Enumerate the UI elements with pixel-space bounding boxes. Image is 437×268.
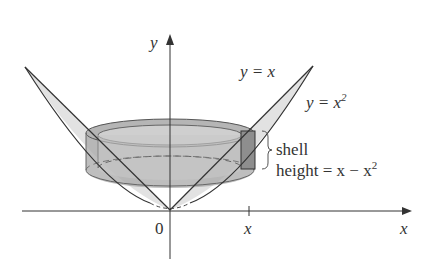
shell-label: shell [276,140,308,159]
y-axis-label: y [148,33,158,52]
y-axis-arrow-icon [166,34,174,45]
curve-label-y-equals-x-squared: y = x2 [304,91,347,112]
shell-diagram: y x 0 x y = x y = x2 shell height = x − … [0,0,437,268]
x-axis-label: x [399,219,408,238]
height-label: height = x − x2 [276,159,377,180]
x-axis-arrow-icon [402,207,412,215]
x-tick-label: x [243,219,252,238]
curve-label-y-equals-x: y = x [238,62,276,81]
origin-label: 0 [155,219,164,238]
